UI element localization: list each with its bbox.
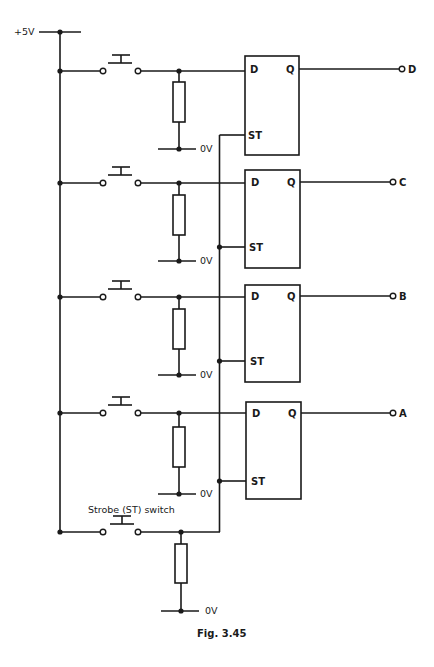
switch-terminal xyxy=(135,180,141,186)
circuit-diagram: +5V 0V xyxy=(0,0,434,667)
st-pin-label: ST xyxy=(249,242,263,253)
switch-terminal xyxy=(135,410,141,416)
q-pin-label: Q xyxy=(288,408,297,419)
d-latch-1: D Q ST D xyxy=(245,56,416,155)
junction-dot xyxy=(176,372,181,377)
junction-dot xyxy=(217,478,222,483)
switch-terminal xyxy=(100,294,106,300)
output-terminal xyxy=(399,66,405,72)
ground-label: 0V xyxy=(200,255,213,266)
pulldown-resistor xyxy=(173,195,185,235)
d-pin-label: D xyxy=(251,177,259,188)
q-pin-label: Q xyxy=(287,177,296,188)
switch-terminal xyxy=(135,294,141,300)
output-terminal xyxy=(390,410,396,416)
junction-dot xyxy=(217,358,222,363)
pulldown-resistor xyxy=(173,82,185,122)
junction-dot xyxy=(178,608,183,613)
ground-label: 0V xyxy=(200,369,213,380)
d-latch-2: D Q ST C xyxy=(245,170,406,268)
st-pin-label: ST xyxy=(250,356,264,367)
junction-dot xyxy=(176,146,181,151)
pulldown-resistor xyxy=(173,427,185,467)
ground-label: 0V xyxy=(200,488,213,499)
strobe-row: Strobe (ST) switch 0V xyxy=(57,504,220,616)
supply-label: +5V xyxy=(14,26,35,37)
st-pin-label: ST xyxy=(251,476,265,487)
switch-terminal xyxy=(100,180,106,186)
output-label: C xyxy=(399,177,406,188)
input-row-c: 0V xyxy=(57,167,245,266)
push-switch[interactable] xyxy=(100,167,141,186)
output-terminal xyxy=(390,179,396,185)
input-row-b: 0V xyxy=(57,281,245,380)
d-latch-3: D Q ST B xyxy=(245,285,407,382)
q-pin-label: Q xyxy=(286,64,295,75)
input-row-a: 0V xyxy=(57,397,246,499)
strobe-switch-label: Strobe (ST) switch xyxy=(88,504,175,515)
junction-dot xyxy=(217,244,222,249)
pulldown-resistor xyxy=(175,544,187,583)
ground-label: 0V xyxy=(200,143,213,154)
output-label: B xyxy=(399,291,407,302)
st-pin-label: ST xyxy=(248,130,262,141)
input-row-d: 0V xyxy=(57,55,245,154)
d-pin-label: D xyxy=(250,64,258,75)
output-terminal xyxy=(390,293,396,299)
switch-terminal xyxy=(100,410,106,416)
switch-terminal xyxy=(100,68,106,74)
push-switch[interactable] xyxy=(100,281,141,300)
switch-terminal xyxy=(135,529,141,535)
output-label: D xyxy=(408,64,416,75)
junction-dot xyxy=(176,491,181,496)
d-latch-4: D Q ST A xyxy=(246,402,407,499)
pulldown-resistor xyxy=(173,309,185,349)
figure-caption: Fig. 3.45 xyxy=(197,628,246,639)
ground-label: 0V xyxy=(205,605,218,616)
switch-terminal xyxy=(135,68,141,74)
switch-terminal xyxy=(100,529,106,535)
junction-dot xyxy=(176,258,181,263)
output-label: A xyxy=(399,408,407,419)
d-pin-label: D xyxy=(251,291,259,302)
push-switch[interactable] xyxy=(100,55,141,74)
d-pin-label: D xyxy=(252,408,260,419)
strobe-switch[interactable] xyxy=(100,516,141,535)
q-pin-label: Q xyxy=(287,291,296,302)
push-switch[interactable] xyxy=(100,397,141,416)
